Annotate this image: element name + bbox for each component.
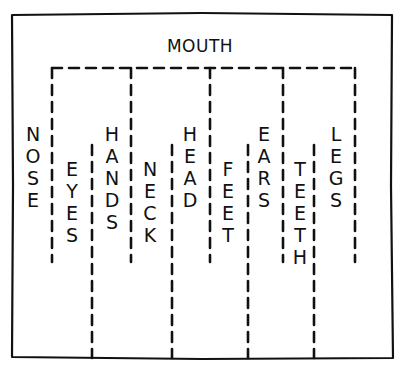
dividers-from-top [52,68,355,262]
diagram-canvas: MOUTH NOSEEYESHANDSNECKHEADFEETEARSTEETH… [0,0,403,370]
word-letter: T [221,224,234,246]
word-letter: D [105,189,120,211]
word-eyes: EYES [65,158,78,246]
dividers-from-bottom [92,145,314,358]
word-feet: FEET [221,158,234,246]
word-letter: T [293,158,306,180]
word-letter: E [258,123,270,145]
word-letter: H [183,123,197,145]
word-columns: NOSEEYESHANDSNECKHEADFEETEARSTEETHLEGS [26,123,344,268]
word-letter: D [183,189,198,211]
word-letter: N [143,158,157,180]
word-letter: T [293,224,306,246]
word-letter: H [293,246,307,268]
word-letter: E [184,145,196,167]
word-letter: S [106,211,118,233]
word-letter: E [27,189,39,211]
word-letter: S [258,189,270,211]
word-letter: E [144,180,156,202]
word-letter: E [294,202,306,224]
word-teeth: TEETH [293,158,307,268]
word-letter: S [330,189,342,211]
word-letter: F [223,158,234,180]
word-letter: E [66,158,78,180]
word-letter: S [66,224,78,246]
word-letter: A [258,145,271,167]
word-legs: LEGS [329,123,344,211]
word-letter: E [330,145,342,167]
word-neck: NECK [143,158,157,246]
word-head: HEAD [183,123,198,211]
word-letter: O [26,145,41,167]
word-letter: N [105,167,119,189]
word-letter: E [66,202,78,224]
word-letter: E [222,180,234,202]
word-nose: NOSE [26,123,41,211]
word-letter: Y [65,180,78,202]
word-letter: E [222,202,234,224]
word-letter: A [184,167,197,189]
word-letter: C [143,202,156,224]
word-letter: L [331,123,342,145]
word-letter: H [105,123,119,145]
word-hands: HANDS [105,123,120,233]
word-letter: S [27,167,39,189]
word-letter: N [26,123,40,145]
word-letter: R [257,167,270,189]
word-letter: K [144,224,157,246]
word-letter: G [329,167,344,189]
word-letter: A [106,145,119,167]
title-mouth: MOUTH [167,36,233,56]
word-letter: E [294,180,306,202]
word-ears: EARS [257,123,270,211]
